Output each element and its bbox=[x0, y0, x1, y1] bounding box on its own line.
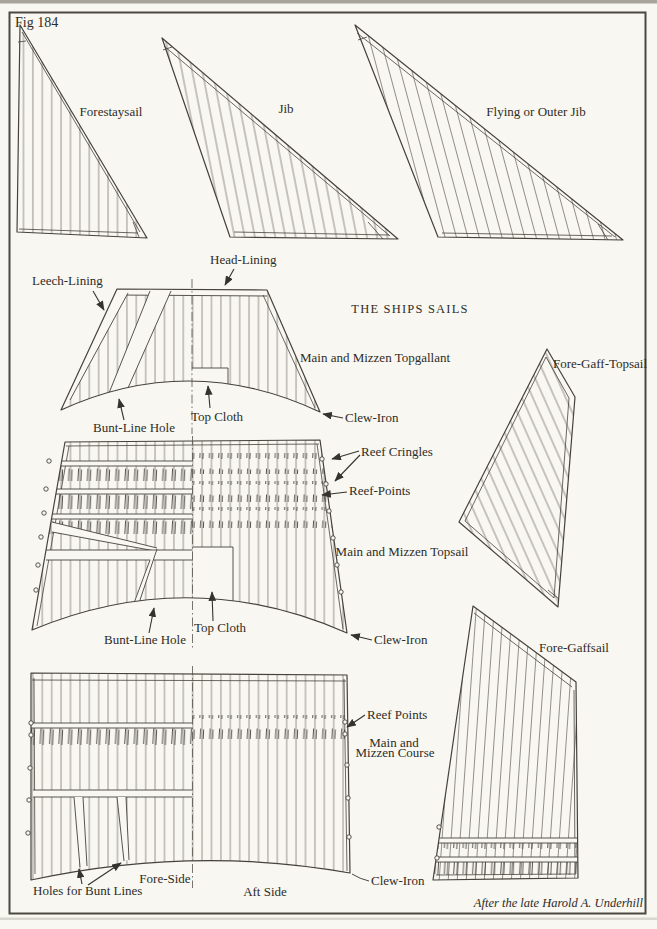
clew-iron-course-line bbox=[352, 874, 369, 881]
label-flying-jib: Flying or Outer Jib bbox=[486, 104, 585, 119]
figure-title: THE SHIPS SAILS bbox=[351, 302, 468, 316]
label-top-cloth-topgallant: Top Cloth bbox=[191, 409, 244, 424]
clew-iron-topsail-arrow bbox=[351, 635, 372, 640]
label-fore-gaff-topsail: Fore-Gaff-Topsail bbox=[553, 356, 648, 371]
label-bunt-line-hole-topgallant: Bunt-Line Hole bbox=[93, 420, 175, 435]
topsail-sail: Main and Mizzen Topsail bbox=[28, 436, 469, 650]
label-clew-iron-course: Clew-Iron bbox=[371, 873, 425, 888]
bunt-line-hole-topsail-arrow bbox=[149, 608, 154, 633]
page-edge-bottom bbox=[0, 918, 657, 921]
label-aft-side: Aft Side bbox=[243, 884, 287, 899]
head-lining-arrow bbox=[225, 269, 234, 285]
label-bunt-line-hole-topsail: Bunt-Line Hole bbox=[104, 632, 186, 647]
label-fore-side: Fore-Side bbox=[139, 871, 191, 886]
label-reef-cringles: Reef Cringles bbox=[361, 444, 433, 459]
course-sail: Main and Mizzen Course bbox=[26, 666, 435, 888]
fore-gaffsail-sail: Fore-Gaffsail bbox=[433, 606, 609, 880]
label-forestaysail: Forestaysail bbox=[80, 104, 143, 119]
leech-lining-arrow bbox=[93, 291, 104, 310]
label-holes-for-bunt-lines: Holes for Bunt Lines bbox=[33, 883, 142, 898]
reef-points-course-arrow bbox=[347, 715, 365, 727]
label-reef-points-course: Reef Points bbox=[367, 707, 427, 722]
label-topsail: Main and Mizzen Topsail bbox=[336, 544, 469, 559]
label-clew-iron-topsail: Clew-Iron bbox=[374, 632, 428, 647]
label-clew-iron-topgallant: Clew-Iron bbox=[345, 410, 399, 425]
book-page: Fig 184 THE SHIPS SAILS Forestaysail Jib… bbox=[0, 0, 657, 929]
top-cloth-topgallant-arrow bbox=[208, 386, 210, 408]
bunt-line-hole-topgallant-arrow bbox=[119, 399, 124, 420]
label-jib: Jib bbox=[278, 101, 293, 116]
forestaysail-sail: Forestaysail bbox=[17, 25, 147, 238]
label-fore-gaffsail: Fore-Gaffsail bbox=[539, 640, 609, 655]
jib-sail: Jib bbox=[162, 38, 398, 239]
page-edge-top bbox=[0, 0, 657, 4]
reef-cringles-arrow-2 bbox=[335, 455, 360, 481]
label-head-lining: Head-Lining bbox=[210, 252, 277, 267]
fore-gaff-topsail-sail: Fore-Gaff-Topsail bbox=[459, 349, 647, 607]
label-topgallant: Main and Mizzen Topgallant bbox=[300, 350, 451, 365]
figure-credit: After the late Harold A. Underhill bbox=[473, 896, 644, 910]
label-reef-points-topsail: Reef-Points bbox=[349, 483, 410, 498]
clew-iron-topgallant-arrow bbox=[323, 414, 343, 418]
sail-plan-figure: Fig 184 THE SHIPS SAILS Forestaysail Jib… bbox=[0, 0, 657, 929]
label-top-cloth-topsail: Top Cloth bbox=[194, 620, 247, 635]
label-course-line2: Mizzen Course bbox=[355, 745, 434, 760]
label-leech-lining: Leech-Lining bbox=[32, 273, 103, 288]
flying-jib-sail: Flying or Outer Jib bbox=[355, 25, 623, 240]
reef-cringles-arrow-1 bbox=[332, 451, 359, 459]
